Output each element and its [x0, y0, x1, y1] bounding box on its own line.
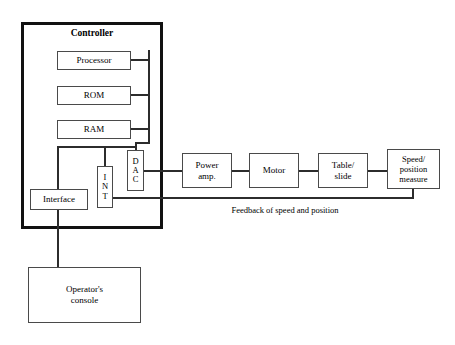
- ram-block[interactable]: RAM: [57, 120, 131, 139]
- processor-block[interactable]: Processor: [57, 51, 131, 70]
- power-amp-label-line1: Power: [196, 160, 219, 171]
- speed-label-line1: Speed/: [399, 154, 427, 164]
- speed-label-line2: position: [399, 164, 427, 174]
- dac-to-power-amp-line: [143, 170, 184, 172]
- processor-label: Processor: [77, 55, 112, 66]
- controller-title: Controller: [21, 28, 163, 38]
- int-block[interactable]: I N T: [97, 166, 113, 208]
- rom-block[interactable]: ROM: [57, 86, 131, 105]
- console-label-line2: console: [66, 295, 103, 306]
- power-amp-block[interactable]: Power amp.: [182, 153, 232, 188]
- diagram-canvas: Controller Processor ROM RAM D A C I N T…: [0, 0, 455, 345]
- interface-block[interactable]: Interface: [30, 189, 88, 210]
- motor-block[interactable]: Motor: [249, 153, 299, 188]
- motor-label-line1: Motor: [263, 165, 286, 176]
- rom-label: ROM: [84, 90, 105, 101]
- power-amp-label-line2: amp.: [196, 171, 219, 182]
- ram-label: RAM: [84, 124, 105, 135]
- spine-to-int-line: [104, 146, 106, 168]
- table-label-line2: slide: [332, 171, 354, 182]
- spine-to-interface-line: [57, 146, 59, 191]
- table-to-speed-line: [366, 170, 389, 172]
- operator-console-block[interactable]: Operator's console: [28, 267, 141, 323]
- interface-to-console-line: [57, 208, 59, 269]
- speed-position-measure-block[interactable]: Speed/ position measure: [387, 149, 440, 189]
- motor-to-table-line: [297, 170, 320, 172]
- speed-label-line3: measure: [399, 174, 427, 184]
- console-label-line1: Operator's: [66, 284, 103, 295]
- power-amp-to-motor-line: [230, 170, 251, 172]
- int-letter-t: T: [102, 192, 107, 201]
- bus-to-dac-horizontal: [135, 142, 150, 144]
- feedback-path-label: Feedback of speed and position: [190, 205, 380, 215]
- table-slide-block[interactable]: Table/ slide: [318, 153, 368, 188]
- data-bus-vertical: [148, 50, 150, 144]
- dac-letter-c: C: [133, 175, 139, 184]
- controller-spine: [57, 146, 136, 148]
- interface-label: Interface: [43, 194, 75, 205]
- dac-block[interactable]: D A C: [127, 150, 144, 191]
- table-label-line1: Table/: [332, 160, 354, 171]
- feedback-horizontal-line: [111, 197, 414, 199]
